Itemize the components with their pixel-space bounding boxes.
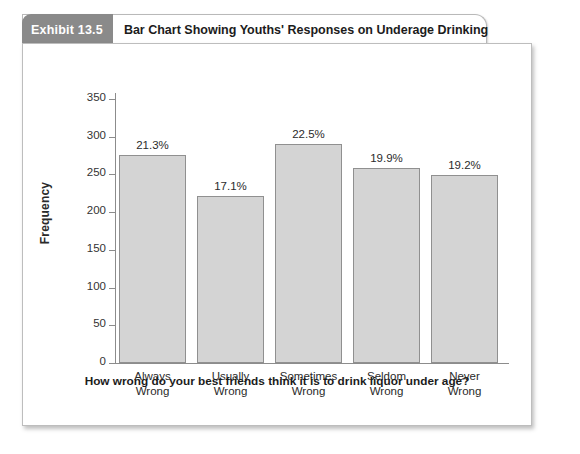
y-axis-tick-mark xyxy=(109,137,115,138)
bar-value-label: 21.3% xyxy=(136,139,169,151)
bar-value-label: 22.5% xyxy=(292,128,325,140)
y-axis-tick-mark xyxy=(109,288,115,289)
y-axis-tick-label: 150 xyxy=(87,242,106,254)
bar-chart: Frequency 050100150200250300350 21.3%17.… xyxy=(23,44,531,425)
x-axis-caption: How wrong do your best friends think it … xyxy=(23,374,531,388)
y-axis-tick-mark xyxy=(109,363,115,364)
x-axis-line xyxy=(115,363,509,364)
y-axis-tick-label: 100 xyxy=(87,280,106,292)
y-axis-line xyxy=(115,93,116,364)
y-axis-title: Frequency xyxy=(38,153,52,273)
exhibit-body-panel: Frequency 050100150200250300350 21.3%17.… xyxy=(22,43,532,426)
y-axis-tick-label: 300 xyxy=(87,129,106,141)
plot-area: 050100150200250300350 21.3%17.1%22.5%19.… xyxy=(115,99,515,363)
y-axis-tick-label: 0 xyxy=(100,355,106,367)
y-axis-tick-mark xyxy=(109,325,115,326)
y-axis-tick-mark xyxy=(109,250,115,251)
y-axis-tick-mark xyxy=(109,174,115,175)
exhibit-title: Bar Chart Showing Youths' Responses on U… xyxy=(113,15,488,44)
exhibit-header: Exhibit 13.5 Bar Chart Showing Youths' R… xyxy=(22,14,487,44)
y-axis-tick-mark xyxy=(109,99,115,100)
y-axis-tick-mark xyxy=(109,212,115,213)
bar: 17.1% xyxy=(197,196,264,363)
y-axis-tick-label: 200 xyxy=(87,204,106,216)
bar-value-label: 19.2% xyxy=(448,159,481,171)
bar: 19.9% xyxy=(353,168,420,363)
y-axis-tick-label: 50 xyxy=(93,317,106,329)
bar: 22.5% xyxy=(275,144,342,363)
y-axis-tick-label: 250 xyxy=(87,166,106,178)
bar-value-label: 19.9% xyxy=(370,152,403,164)
exhibit-badge: Exhibit 13.5 xyxy=(22,14,113,45)
bar: 19.2% xyxy=(431,175,498,363)
bar-value-label: 17.1% xyxy=(214,180,247,192)
y-axis-tick-label: 350 xyxy=(87,91,106,103)
bar: 21.3% xyxy=(119,155,186,363)
exhibit-frame: Exhibit 13.5 Bar Chart Showing Youths' R… xyxy=(22,14,532,426)
